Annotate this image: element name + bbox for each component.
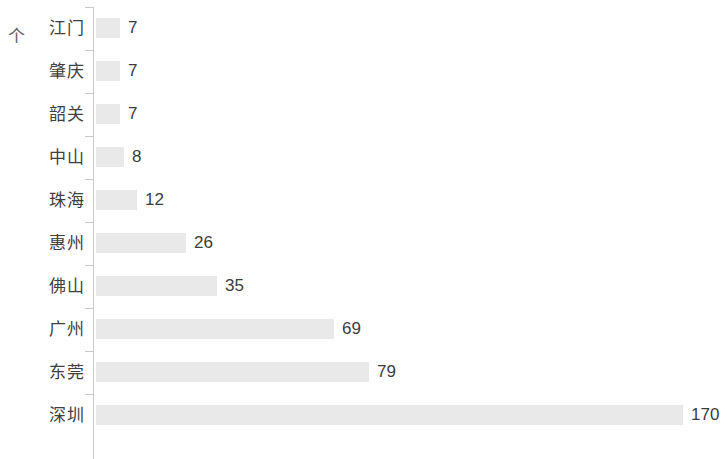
bar[interactable]	[96, 18, 120, 38]
bar-fill	[96, 405, 683, 425]
bar-row[interactable]: 东莞79	[0, 351, 728, 394]
bar-fill	[96, 104, 120, 124]
bar-row[interactable]: 广州69	[0, 308, 728, 351]
category-label: 韶关	[49, 104, 85, 125]
bar-value-label: 69	[342, 319, 361, 339]
bar-row[interactable]: 珠海12	[0, 179, 728, 222]
axis-tick	[85, 308, 94, 309]
bar-value-label: 7	[128, 61, 137, 81]
bar-fill	[96, 190, 137, 210]
category-label: 肇庆	[49, 61, 85, 82]
bar-chart: 个 江门7肇庆7韶关7中山8珠海12惠州26佛山35广州69东莞79深圳170	[0, 0, 728, 459]
bar-value-label: 35	[225, 276, 244, 296]
bar-row[interactable]: 惠州26	[0, 222, 728, 265]
axis-tick	[85, 179, 94, 180]
bar[interactable]	[96, 104, 120, 124]
bar-row[interactable]: 佛山35	[0, 265, 728, 308]
category-label: 佛山	[49, 276, 85, 297]
axis-tick	[85, 351, 94, 352]
bar[interactable]	[96, 319, 334, 339]
bar-fill	[96, 18, 120, 38]
axis-tick	[85, 394, 94, 395]
bar-fill	[96, 319, 334, 339]
bar-value-label: 7	[128, 18, 137, 38]
axis-tick	[85, 50, 94, 51]
bar-value-label: 8	[132, 147, 141, 167]
bar[interactable]	[96, 61, 120, 81]
category-label: 惠州	[49, 233, 85, 254]
category-label: 珠海	[49, 190, 85, 211]
category-label: 中山	[49, 147, 85, 168]
axis-tick	[85, 222, 94, 223]
bar[interactable]	[96, 233, 186, 253]
bar-fill	[96, 61, 120, 81]
bar-fill	[96, 276, 217, 296]
axis-tick	[85, 265, 94, 266]
category-label: 东莞	[49, 362, 85, 383]
bar-row[interactable]: 中山8	[0, 136, 728, 179]
category-label: 江门	[49, 18, 85, 39]
axis-tick	[85, 93, 94, 94]
bar-value-label: 170	[691, 405, 719, 425]
bar[interactable]	[96, 190, 137, 210]
bar-fill	[96, 362, 369, 382]
bar-value-label: 12	[145, 190, 164, 210]
bar-row[interactable]: 深圳170	[0, 394, 728, 437]
bar[interactable]	[96, 362, 369, 382]
bar-fill	[96, 147, 124, 167]
bar[interactable]	[96, 405, 683, 425]
bar-row[interactable]: 肇庆7	[0, 50, 728, 93]
axis-tick	[85, 7, 94, 8]
bar-fill	[96, 233, 186, 253]
bar-value-label: 79	[377, 362, 396, 382]
category-label: 深圳	[49, 405, 85, 426]
plot-area: 江门7肇庆7韶关7中山8珠海12惠州26佛山35广州69东莞79深圳170	[0, 0, 728, 459]
bar-row[interactable]: 韶关7	[0, 93, 728, 136]
bar-row[interactable]: 江门7	[0, 7, 728, 50]
category-label: 广州	[49, 319, 85, 340]
bar[interactable]	[96, 276, 217, 296]
bar[interactable]	[96, 147, 124, 167]
axis-tick	[85, 136, 94, 137]
bar-value-label: 7	[128, 104, 137, 124]
bar-value-label: 26	[194, 233, 213, 253]
